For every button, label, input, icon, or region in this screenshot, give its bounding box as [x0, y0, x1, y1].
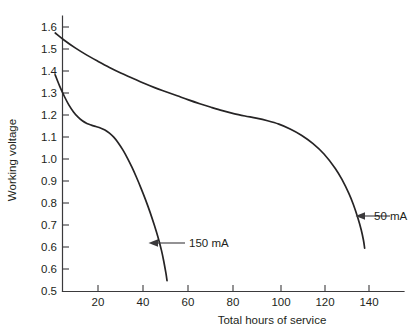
x-tick-label: 80 [227, 296, 240, 308]
y-tick-label: 0.9 [41, 175, 57, 187]
y-tick-label: 1.3 [41, 87, 57, 99]
y-tick-label-0-6: 0.6 [41, 263, 57, 275]
x-tick-label: 60 [182, 296, 195, 308]
annotation-150ma-label: 150 mA [189, 237, 229, 249]
x-tick-label: 120 [315, 296, 334, 308]
x-tick-label: 100 [271, 296, 290, 308]
y-tick-label: 1.2 [41, 109, 57, 121]
y-tick-label: 0.8 [41, 197, 57, 209]
x-tick-label: 140 [359, 296, 378, 308]
y-axis-title: Working voltage [6, 119, 18, 201]
annotation-50ma-label: 50 mA [374, 210, 408, 222]
x-tick-label: 40 [137, 296, 150, 308]
y-tick-label: 0.7 [41, 219, 57, 231]
y-tick-label: 1.0 [41, 153, 57, 165]
x-axis-title: Total hours of service [218, 314, 327, 326]
y-tick-label: 0.6 [41, 241, 57, 253]
y-tick-label: 1.1 [41, 131, 57, 143]
y-tick-label: 0.5 [41, 285, 57, 297]
y-tick-label: 1.5 [41, 43, 57, 55]
y-tick-label: 1.6 [41, 21, 57, 33]
line-chart-svg: 1.6 1.5 1.4 1.3 1.2 1.1 1.0 0.9 0.8 0.7 … [0, 0, 419, 329]
x-tick-label: 20 [92, 296, 105, 308]
chart-figure: 1.6 1.5 1.4 1.3 1.2 1.1 1.0 0.9 0.8 0.7 … [0, 0, 419, 329]
